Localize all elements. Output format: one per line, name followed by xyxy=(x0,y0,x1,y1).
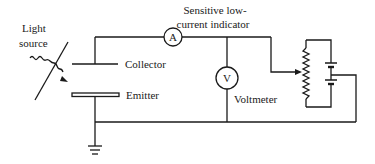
indicator-label-line2: current indicator xyxy=(177,18,250,30)
light-source-label-line1: Light xyxy=(22,22,46,34)
collector-plate xyxy=(72,37,118,64)
wire-battery-tap xyxy=(331,75,356,122)
voltmeter-symbol: V xyxy=(223,72,231,84)
wire-wiper xyxy=(271,37,298,72)
light-source-label-line2: source xyxy=(19,37,48,49)
potentiometer xyxy=(303,40,331,107)
emitter-plate xyxy=(72,93,119,146)
indicator-label-line1: Sensitive low- xyxy=(183,4,247,16)
circuit-diagram: Light source Collector Emitter A Sensiti… xyxy=(0,0,375,164)
voltmeter-label: Voltmeter xyxy=(234,93,278,105)
wiper-arrow-icon xyxy=(295,69,302,75)
arrowhead-icon xyxy=(60,76,68,82)
collector-label: Collector xyxy=(125,58,166,70)
emitter-label: Emitter xyxy=(126,89,159,101)
resistor-zigzag xyxy=(303,48,309,99)
ground-icon xyxy=(88,146,102,154)
light-source xyxy=(30,42,68,100)
ammeter-symbol: A xyxy=(169,31,177,43)
